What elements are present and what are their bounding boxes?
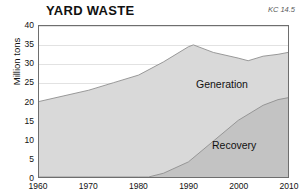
y-axis-tick: 20 [4, 97, 34, 106]
y-axis-tick: 10 [4, 136, 34, 145]
chart-annotation: KC 14.5 [268, 5, 295, 14]
series-areas [39, 26, 288, 177]
x-axis-tick: 1970 [79, 181, 98, 191]
y-axis-tick: 40 [4, 21, 34, 30]
chart-title: YARD WASTE [46, 3, 134, 18]
y-axis-tick: 25 [4, 78, 34, 87]
y-axis-tick: 30 [4, 59, 34, 68]
yard-waste-area-chart: YARD WASTE KC 14.5 Million tons 05101520… [0, 0, 303, 196]
y-axis-tick: 5 [4, 155, 34, 164]
y-axis-tick: 15 [4, 116, 34, 125]
x-axis-tick: 1960 [29, 181, 48, 191]
series-label-recovery: Recovery [212, 139, 256, 151]
x-axis-tick: 1990 [179, 181, 198, 191]
x-axis-tick: 1980 [129, 181, 148, 191]
y-axis-tick: 35 [4, 40, 34, 49]
series-label-generation: Generation [196, 78, 248, 90]
plot-area [38, 25, 289, 178]
y-axis-tick-labels: 0510152025303540 [0, 0, 34, 196]
x-axis-tick: 2000 [229, 181, 248, 191]
x-axis-tick: 2010 [280, 181, 299, 191]
